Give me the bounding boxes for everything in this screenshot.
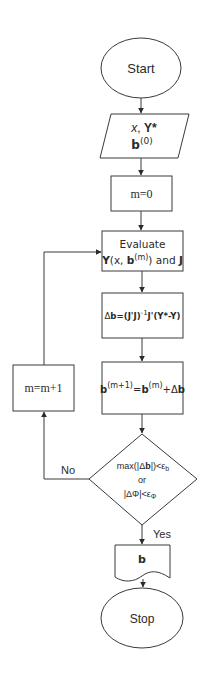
no-label: No: [61, 464, 75, 476]
edge-increment-evaluate: [44, 252, 101, 365]
flowchart-canvas: Start x, Y* b(0) m=0 Evaluate Y(x, b(m))…: [0, 0, 213, 674]
decision-line1: max(|Δb|)<εb: [117, 461, 169, 472]
stop-label: Stop: [130, 612, 155, 626]
output-node: b: [115, 545, 170, 581]
init-label: m=0: [130, 187, 152, 201]
decision-node: max(|Δb|)<εb or |ΔΦ|<εΦ: [89, 434, 197, 525]
decision-line2: or: [138, 475, 146, 485]
start-node: Start: [101, 38, 181, 98]
evaluate-line1: Evaluate: [120, 238, 166, 250]
increment-label: m=m+1: [24, 381, 62, 395]
output-label: b: [138, 553, 146, 566]
init-node: m=0: [111, 176, 172, 211]
evaluate-node: Evaluate Y(x, b(m)) and J: [101, 231, 183, 271]
delta-node: Δb=(J'J)-1J'(Y*-Y): [102, 293, 183, 338]
increment-node: m=m+1: [13, 365, 74, 411]
input-line1: x, Y*: [130, 121, 157, 135]
input-node: x, Y* b(0): [100, 114, 189, 158]
start-label: Start: [127, 61, 155, 76]
update-node: b(m+1)=b(m)+Δb: [100, 362, 185, 414]
stop-node: Stop: [101, 588, 183, 648]
yes-label: Yes: [153, 528, 171, 540]
